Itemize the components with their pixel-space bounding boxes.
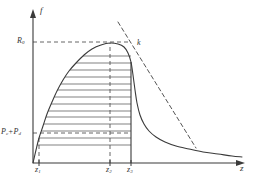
x-tick-z2-sub: 2 xyxy=(109,169,111,174)
tangent-line-through-k xyxy=(118,22,196,148)
axes xyxy=(30,9,245,166)
plot-canvas xyxy=(0,0,253,179)
hatched-area xyxy=(37,56,131,145)
x-tick-z1-sub: 1 xyxy=(38,169,40,174)
x-tick-z3-sub: 3 xyxy=(130,169,132,174)
y-tick-label-PcPd: Pc+Pd xyxy=(1,128,21,137)
y-tick-P2-sub: d xyxy=(18,131,20,136)
y-tick-label-R0: R0 xyxy=(17,37,24,46)
x-tick-label-z1: z1 xyxy=(35,166,41,175)
y-axis-label: f xyxy=(40,6,43,15)
point-label-k: k xyxy=(137,39,141,47)
x-tick-label-z3: z3 xyxy=(127,166,133,175)
y-tick-R0-sub: 0 xyxy=(22,40,24,45)
y-axis-arrowhead xyxy=(30,9,36,18)
figure-container: f z R0 Pc+Pd z1 z2 z3 k xyxy=(0,0,253,179)
x-tick-label-z2: z2 xyxy=(106,166,112,175)
x-axis-label: z xyxy=(240,164,244,173)
